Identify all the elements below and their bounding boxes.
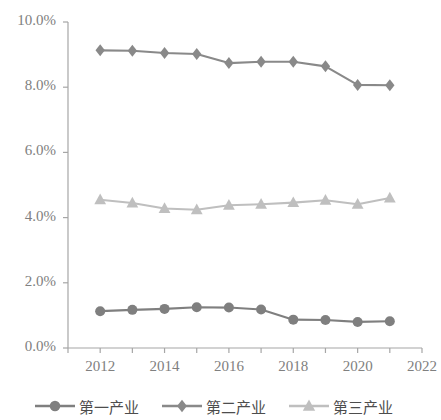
series-line — [100, 307, 390, 322]
legend-item[interactable]: 第一产业 — [34, 396, 139, 417]
data-point-triangle — [384, 192, 396, 203]
y-axis-tick-label: 6.0% — [0, 142, 56, 159]
data-point-circle — [256, 305, 266, 315]
chart-legend: 第一产业第二产业第三产业 — [0, 392, 426, 420]
x-axis-tick-label: 2018 — [263, 358, 323, 375]
chart-series-group — [94, 44, 395, 327]
legend-marker-icon — [34, 397, 76, 415]
y-axis-tick-label: 8.0% — [0, 77, 56, 94]
data-point-diamond — [96, 44, 105, 56]
data-point-triangle — [94, 193, 106, 204]
x-axis-tick-label: 2012 — [70, 358, 130, 375]
series-line — [100, 50, 390, 85]
data-point-circle — [95, 306, 105, 316]
x-axis-tick-label: 2014 — [135, 358, 195, 375]
legend-item[interactable]: 第二产业 — [161, 396, 266, 417]
x-axis-tick-label: 2020 — [328, 358, 388, 375]
data-point-circle — [320, 315, 330, 325]
legend-marker-icon — [161, 397, 203, 415]
legend-item[interactable]: 第三产业 — [288, 396, 393, 417]
x-axis-tick-label: 2016 — [199, 358, 259, 375]
data-point-circle — [192, 302, 202, 312]
data-point-diamond — [289, 56, 298, 68]
data-point-circle — [385, 316, 395, 326]
y-axis-tick-label: 10.0% — [0, 12, 56, 29]
data-point-diamond — [321, 60, 330, 72]
x-axis-tick-label: 2022 — [392, 358, 441, 375]
data-point-circle — [160, 304, 170, 314]
data-point-diamond — [224, 57, 233, 69]
legend-label: 第二产业 — [206, 396, 266, 417]
chart-series — [96, 44, 395, 91]
chart-axes — [63, 22, 422, 353]
chart-series — [94, 192, 395, 214]
legend-label: 第一产业 — [79, 396, 139, 417]
series-line — [100, 198, 390, 210]
data-point-diamond — [353, 79, 362, 91]
data-point-diamond — [385, 79, 394, 91]
data-point-diamond — [177, 400, 187, 413]
data-point-circle — [353, 317, 363, 327]
y-axis-tick-label: 4.0% — [0, 208, 56, 225]
y-axis-tick-label: 0.0% — [0, 338, 56, 355]
data-point-circle — [288, 315, 298, 325]
data-point-circle — [224, 303, 234, 313]
data-point-diamond — [160, 47, 169, 59]
data-point-circle — [127, 305, 137, 315]
chart-series — [95, 302, 395, 327]
legend-marker-icon — [288, 397, 330, 415]
legend-label: 第三产业 — [333, 396, 393, 417]
data-point-diamond — [192, 48, 201, 60]
data-point-diamond — [256, 56, 265, 68]
data-point-diamond — [128, 45, 137, 57]
data-point-triangle — [320, 194, 332, 205]
data-point-circle — [49, 401, 60, 412]
y-axis-tick-label: 2.0% — [0, 273, 56, 290]
